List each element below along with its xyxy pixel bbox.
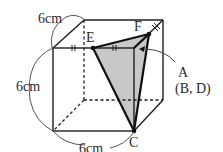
leader-line-a	[146, 49, 175, 62]
vertex-label-a: A	[178, 66, 188, 80]
vertex-f-dot	[147, 32, 152, 37]
dim-label-bottom: 6cm	[79, 142, 103, 152]
vertex-e-dot	[91, 46, 96, 51]
vertex-label-e: E	[86, 31, 95, 45]
vertex-label-f: F	[134, 20, 142, 34]
vertex-label-c: C	[129, 136, 138, 150]
cube-diagram	[0, 0, 223, 152]
vertex-label-a-note: (B, D)	[175, 82, 211, 96]
dim-label-left: 6cm	[16, 80, 40, 94]
dim-label-top: 6cm	[38, 12, 62, 26]
